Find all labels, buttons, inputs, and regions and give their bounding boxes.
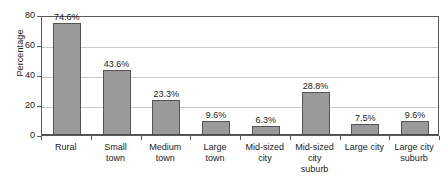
bar-value-label: 74.6% <box>54 12 80 22</box>
x-axis-category-label-line: Large city <box>385 142 443 153</box>
plot-area: 74.6%43.6%23.3%9.6%6.3%28.8%7.5%9.6% <box>41 16 439 136</box>
x-axis-tick-mark <box>190 136 191 140</box>
x-axis-tick-mark <box>41 136 42 140</box>
bar-value-label: 9.6% <box>203 110 229 120</box>
bar: 28.8% <box>302 92 330 135</box>
y-axis-tick-mark <box>37 76 41 77</box>
bar-group: 28.8% <box>291 17 341 135</box>
bar: 9.6% <box>202 121 230 135</box>
y-axis-tick-mark <box>37 46 41 47</box>
bar-group: 74.6% <box>42 17 92 135</box>
x-axis-category-label-line: suburb <box>286 164 344 175</box>
y-axis-tick-label: 20 <box>25 101 35 110</box>
bar-value-label: 7.5% <box>352 113 378 123</box>
x-axis-tick-mark <box>240 136 241 140</box>
x-axis-tick-mark <box>91 136 92 140</box>
bar-chart: Percentage 020406080 74.6%43.6%23.3%9.6%… <box>0 0 443 192</box>
y-axis-tick-label: 0 <box>30 131 35 140</box>
bar-group: 7.5% <box>341 17 391 135</box>
y-axis-tick-labels: 020406080 <box>0 0 39 192</box>
bar-value-label: 23.3% <box>153 89 179 99</box>
x-axis-category-label-line: city <box>286 153 344 164</box>
x-axis-tick-mark <box>439 136 440 140</box>
bar-group: 6.3% <box>241 17 291 135</box>
bar-group: 9.6% <box>191 17 241 135</box>
x-axis-category-labels: RuralSmalltownMediumtownLargetownMid-siz… <box>41 142 439 192</box>
bar: 23.3% <box>152 100 180 135</box>
x-axis-tick-mark <box>340 136 341 140</box>
bar-group: 23.3% <box>142 17 192 135</box>
bar: 74.6% <box>53 23 81 135</box>
bar-group: 43.6% <box>92 17 142 135</box>
x-axis-category-label: Large citysuburb <box>385 142 443 164</box>
bar: 9.6% <box>401 121 429 135</box>
x-axis-tick-mark <box>389 136 390 140</box>
x-axis-tick-mark <box>290 136 291 140</box>
bars-layer: 74.6%43.6%23.3%9.6%6.3%28.8%7.5%9.6% <box>42 17 438 135</box>
bar-value-label: 6.3% <box>253 115 279 125</box>
bar-value-label: 43.6% <box>104 59 130 69</box>
bar-value-label: 9.6% <box>402 110 428 120</box>
x-axis-line <box>42 134 438 135</box>
bar: 43.6% <box>103 70 131 135</box>
x-axis-category-label-line: suburb <box>385 153 443 164</box>
y-axis-tick-mark <box>37 16 41 17</box>
y-axis-tick-label: 80 <box>25 11 35 20</box>
bar-group: 9.6% <box>390 17 440 135</box>
y-axis-tick-label: 40 <box>25 71 35 80</box>
y-axis-tick-mark <box>37 106 41 107</box>
y-axis-tick-label: 60 <box>25 41 35 50</box>
bar-value-label: 28.8% <box>303 81 329 91</box>
x-axis-tick-mark <box>141 136 142 140</box>
